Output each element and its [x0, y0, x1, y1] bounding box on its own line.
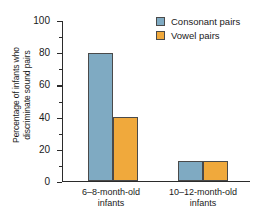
y-minor-tick-70 — [59, 69, 63, 70]
y-axis-title-line-1: Percentage of infants who — [11, 47, 22, 143]
y-axis-title: Percentage of infants who discriminate s… — [0, 0, 44, 190]
y-tick-40: 40 — [57, 118, 62, 119]
y-tick-label-80: 80 — [39, 48, 50, 58]
y-axis-line — [62, 21, 63, 182]
plot-area: 100 80 60 40 20 0 — [62, 21, 250, 182]
bar-chart-figure: Percentage of infants who discriminate s… — [0, 0, 270, 221]
group-label-2-line-2: infants — [143, 198, 263, 209]
y-tick-60: 60 — [57, 85, 62, 86]
legend-swatch-vowel-pairs — [156, 31, 165, 40]
y-axis-title-line-2: discriminate sound pairs — [22, 47, 33, 143]
y-tick-80: 80 — [57, 53, 62, 54]
legend-label-consonant-pairs: Consonant pairs — [171, 16, 240, 27]
legend-item-consonant-pairs[interactable]: Consonant pairs — [156, 15, 240, 28]
y-tick-20: 20 — [57, 150, 62, 151]
y-tick-label-100: 100 — [33, 16, 50, 26]
y-tick-0: 0 — [57, 182, 62, 183]
legend-swatch-consonant-pairs — [156, 17, 165, 26]
group-label-2-line-1: 10–12-month-old — [143, 187, 263, 198]
y-tick-label-20: 20 — [39, 145, 50, 155]
x-axis-group-label-10-12-months: 10–12-month-old infants — [143, 187, 263, 209]
y-tick-label-0: 0 — [44, 177, 50, 187]
y-minor-tick-50 — [59, 102, 63, 103]
bar-consonant-6-8-months[interactable] — [88, 53, 113, 182]
bar-vowel-6-8-months[interactable] — [113, 117, 138, 181]
legend-item-vowel-pairs[interactable]: Vowel pairs — [156, 29, 240, 42]
chart-legend: Consonant pairs Vowel pairs — [156, 15, 240, 43]
y-minor-tick-30 — [59, 134, 63, 135]
bar-vowel-10-12-months[interactable] — [203, 161, 228, 182]
legend-label-vowel-pairs: Vowel pairs — [171, 30, 220, 41]
y-tick-100: 100 — [57, 21, 62, 22]
y-tick-label-60: 60 — [39, 80, 50, 90]
y-tick-label-40: 40 — [39, 113, 50, 123]
bar-consonant-10-12-months[interactable] — [178, 161, 203, 182]
y-minor-tick-90 — [59, 37, 63, 38]
y-minor-tick-10 — [59, 166, 63, 167]
